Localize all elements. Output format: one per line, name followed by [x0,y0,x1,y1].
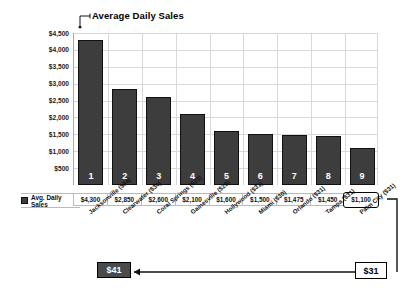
bar[interactable]: 6 [248,134,273,185]
y-axis-tick-label: $2,000 [25,114,69,121]
y-axis-tick-label: $3,000 [25,80,69,87]
y-axis-tick-label: $4,000 [25,46,69,53]
gridline-vertical [243,33,244,185]
gridline-vertical [142,33,143,185]
gridline [74,84,378,85]
y-axis-tick-label: $1,000 [25,148,69,155]
bar[interactable]: 7 [282,135,307,185]
plot-right-border [377,33,378,185]
bar-number-label: 6 [249,171,272,181]
gridline-vertical [176,33,177,185]
gridline-vertical [311,33,312,185]
bar[interactable]: 5 [214,131,239,185]
legend-swatch-icon [21,197,28,204]
gridline-vertical [277,33,278,185]
gridline-vertical [108,33,109,185]
bar[interactable]: 1 [78,40,103,185]
chart-canvas: Average Daily Sales 123456789 $4,500$4,0… [0,0,415,297]
y-axis-tick-label: $4,500 [25,30,69,37]
bar-number-label: 3 [147,171,170,181]
bar[interactable]: 9 [350,148,375,185]
gridline [74,33,378,34]
gridline [74,50,378,51]
bar[interactable]: 3 [146,97,171,185]
y-axis-tick-label: $3,500 [25,63,69,70]
bar-number-label: 7 [283,171,306,181]
callout-right-badge: $31 [355,262,387,279]
bar[interactable]: 4 [180,114,205,185]
gridline [74,67,378,68]
y-axis-tick-label: $2,500 [25,97,69,104]
title-pointer-icon [78,13,92,31]
bar[interactable]: 2 [112,89,137,185]
callout-left-badge: $41 [97,262,131,278]
gridline-vertical [345,33,346,185]
bar-number-label: 8 [317,171,340,181]
bar-number-label: 1 [79,171,102,181]
plot-area: 123456789 [73,33,378,185]
bar-number-label: 9 [351,171,374,181]
chart-title: Average Daily Sales [92,10,184,21]
y-axis-tick-label: $500 [25,165,69,172]
legend-entry: Avg. Daily Sales [21,193,80,208]
gridline-vertical [210,33,211,185]
bar[interactable]: 8 [316,136,341,185]
y-axis-tick-label: $1,500 [25,131,69,138]
